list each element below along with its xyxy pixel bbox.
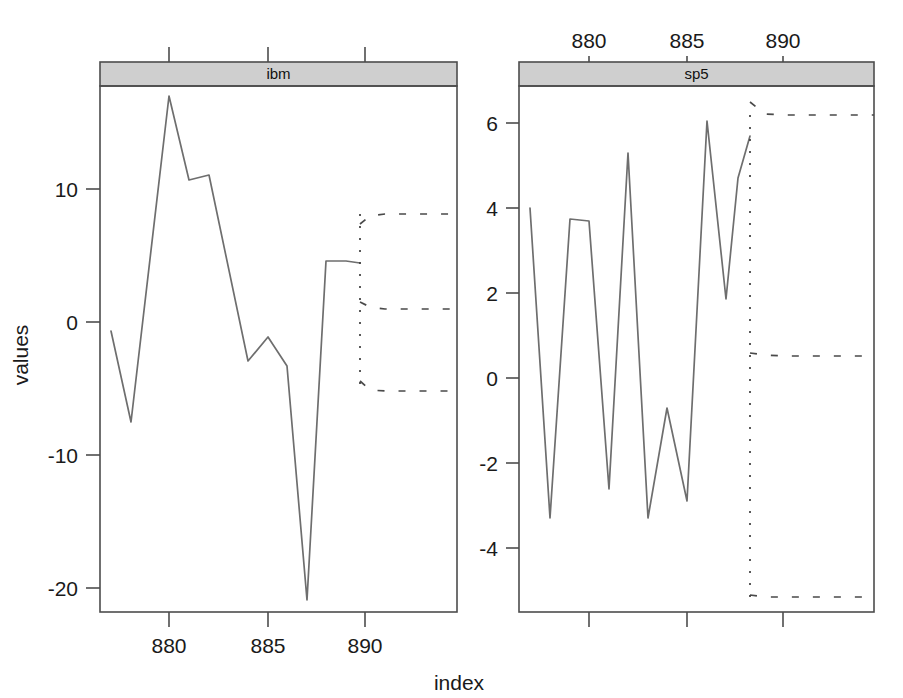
- ytick-label: -4: [479, 537, 498, 560]
- panel-sp5-observed-line: [530, 121, 750, 518]
- panel-sp5-forecast-mean: [750, 353, 874, 356]
- panel-sp5-top-ticks: [589, 56, 783, 62]
- panel-ibm-forecast-upper: [360, 214, 457, 224]
- ytick-label: -10: [48, 444, 78, 467]
- panel-ibm-top-ticks: [169, 47, 365, 62]
- panel-sp5-bottom-ticks: [589, 612, 783, 627]
- panel-sp5-y-tick-labels: 6 4 2 0 -2 -4: [479, 112, 498, 560]
- panel-ibm-forecast-lower: [360, 381, 457, 391]
- trellis-forecast-figure: ibm 10 0 -10 -20: [0, 0, 903, 698]
- ytick-label: 0: [486, 367, 498, 390]
- xtick-label: 890: [765, 29, 800, 52]
- panel-sp5-strip-label: sp5: [684, 65, 708, 82]
- xtick-label: 885: [669, 29, 704, 52]
- ytick-label: 2: [486, 282, 498, 305]
- panel-sp5-frame: [519, 86, 874, 612]
- xtick-label: 890: [347, 634, 382, 657]
- panel-sp5: 880 885 890 sp5: [479, 29, 874, 627]
- panel-sp5-x-tick-labels-top: 880 885 890: [571, 29, 800, 52]
- y-axis-title: values: [9, 325, 32, 386]
- panel-sp5-forecast-upper: [750, 102, 874, 115]
- panel-ibm-strip-label: ibm: [266, 65, 290, 82]
- panel-sp5-forecast-lower: [750, 595, 874, 597]
- panel-ibm-y-tick-labels: 10 0 -10 -20: [48, 178, 78, 600]
- xtick-label: 880: [571, 29, 606, 52]
- figure-canvas: ibm 10 0 -10 -20: [0, 0, 903, 698]
- x-axis-title: index: [434, 671, 485, 694]
- panel-ibm-observed-line: [111, 96, 360, 600]
- ytick-label: 10: [55, 178, 78, 201]
- panel-ibm-y-ticks: [86, 189, 100, 588]
- panel-ibm: ibm 10 0 -10 -20: [48, 47, 457, 657]
- ytick-label: -2: [479, 452, 498, 475]
- xtick-label: 885: [250, 634, 285, 657]
- ytick-label: 6: [486, 112, 498, 135]
- panel-ibm-forecast-mean: [360, 302, 457, 309]
- ytick-label: 4: [486, 197, 498, 220]
- panel-ibm-frame: [100, 86, 457, 612]
- ytick-label: -20: [48, 577, 78, 600]
- panel-ibm-bottom-ticks: [169, 612, 365, 627]
- xtick-label: 880: [151, 634, 186, 657]
- ytick-label: 0: [66, 311, 78, 334]
- panel-ibm-x-tick-labels: 880 885 890: [151, 634, 382, 657]
- panel-sp5-y-ticks: [506, 123, 519, 548]
